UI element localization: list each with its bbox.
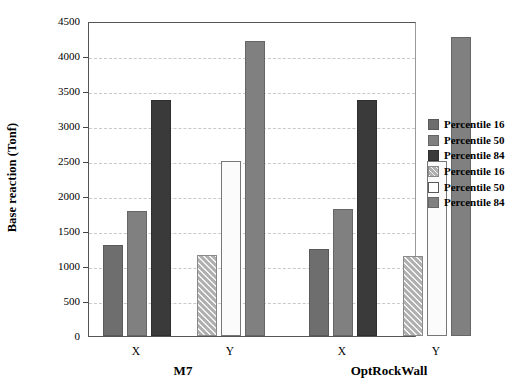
- y-axis-tick-label: 0: [32, 331, 80, 342]
- y-axis-tick-label: 1500: [32, 226, 80, 237]
- legend-swatch-icon: [428, 150, 439, 161]
- legend-swatch-icon: [428, 182, 439, 193]
- plot-area: [88, 22, 416, 337]
- legend-item[interactable]: Percentile 84: [428, 195, 527, 211]
- x-axis-group-label: M7: [103, 363, 263, 379]
- y-axis-tick-label: 3000: [32, 121, 80, 132]
- legend-item[interactable]: Percentile 50: [428, 179, 527, 195]
- legend-item-label: Percentile 50: [444, 135, 505, 146]
- legend-swatch-icon: [428, 197, 439, 208]
- legend-item-label: Percentile 84: [444, 197, 505, 208]
- legend-item-label: Percentile 16: [444, 119, 505, 130]
- x-axis-subgroup-label: Y: [406, 345, 466, 357]
- legend-item[interactable]: Percentile 16: [428, 117, 527, 133]
- y-axis-tick-label: 2500: [32, 156, 80, 167]
- x-axis-subgroup-label: X: [312, 345, 372, 357]
- bar: [221, 161, 241, 336]
- y-axis-tick-label: 500: [32, 296, 80, 307]
- bar: [403, 256, 423, 336]
- y-axis-tick-label: 3500: [32, 86, 80, 97]
- bar: [127, 211, 147, 336]
- bar-chart: Base reaction (Tonf) 0500100015002000250…: [0, 0, 527, 391]
- x-axis-subgroup-label: X: [106, 345, 166, 357]
- legend-item[interactable]: Percentile 50: [428, 133, 527, 149]
- legend-item[interactable]: Percentile 84: [428, 148, 527, 164]
- legend-item-label: Percentile 16: [444, 166, 505, 177]
- legend-item-label: Percentile 50: [444, 182, 505, 193]
- y-axis-title-text: Base reaction (Tonf): [6, 122, 21, 232]
- bar: [245, 41, 265, 336]
- bar: [197, 255, 217, 336]
- bar: [357, 100, 377, 336]
- legend-item[interactable]: Percentile 16: [428, 164, 527, 180]
- legend-item-label: Percentile 84: [444, 150, 505, 161]
- bar: [151, 100, 171, 336]
- y-axis-tick-label: 2000: [32, 191, 80, 202]
- y-axis-title: Base reaction (Tonf): [2, 62, 24, 292]
- legend-swatch-icon: [428, 135, 439, 146]
- y-axis-tick-label: 4500: [32, 16, 80, 27]
- legend-swatch-icon: [428, 166, 439, 177]
- legend-swatch-icon: [428, 119, 439, 130]
- y-axis-tick-label: 1000: [32, 261, 80, 272]
- x-axis-subgroup-label: Y: [200, 345, 260, 357]
- legend: Percentile 16Percentile 50Percentile 84P…: [428, 117, 527, 211]
- bar: [103, 245, 123, 336]
- y-axis-tick-label: 4000: [32, 51, 80, 62]
- x-axis-group-label: OptRockWall: [309, 363, 469, 379]
- bar: [333, 209, 353, 336]
- bar: [309, 249, 329, 337]
